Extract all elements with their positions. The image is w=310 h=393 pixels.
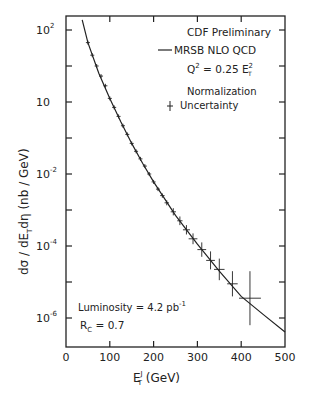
data-point <box>90 53 94 57</box>
y-axis-label: dσ / dETdη (nb / GeV) <box>17 148 34 275</box>
data-point <box>227 271 238 296</box>
x-tick-label: 0 <box>63 351 70 364</box>
data-point <box>86 41 90 45</box>
y-tick-label: 10 <box>36 96 50 109</box>
y-tick-label: 10-2 <box>36 166 57 181</box>
legend-scale-label: Q2 = 0.25 E2T <box>187 62 253 77</box>
x-tick-label: 300 <box>187 351 208 364</box>
legend-norm-label-2: Uncertainty <box>180 100 239 111</box>
cone-radius-label: RC = 0.7 <box>80 319 124 334</box>
legend-title: CDF Preliminary <box>187 26 271 38</box>
x-tick-label: 500 <box>275 351 296 364</box>
data-point <box>206 251 215 269</box>
luminosity-label: Luminosity = 4.2 pb-1 <box>78 300 186 313</box>
qcd-curve <box>82 20 285 332</box>
data-points <box>86 41 261 326</box>
x-tick-label: 400 <box>231 351 252 364</box>
data-point <box>108 96 112 100</box>
data-point <box>239 271 261 325</box>
jet-cross-section-chart: 01002003004005001021010-210-410-6 CDF Pr… <box>0 0 310 393</box>
data-point <box>214 259 225 281</box>
legend-errorbar-swatch <box>167 101 173 111</box>
y-tick-label: 10-6 <box>36 310 58 325</box>
legend-norm-label-1: Normalization <box>187 86 257 97</box>
y-tick-label: 10-4 <box>36 238 58 253</box>
x-tick-label: 100 <box>99 351 120 364</box>
x-axis-label: EJT (GeV) <box>133 370 180 387</box>
data-point <box>197 242 206 256</box>
y-tick-label: 102 <box>36 22 54 37</box>
x-tick-label: 200 <box>143 351 164 364</box>
legend-line-label: MRSB NLO QCD <box>174 44 256 56</box>
